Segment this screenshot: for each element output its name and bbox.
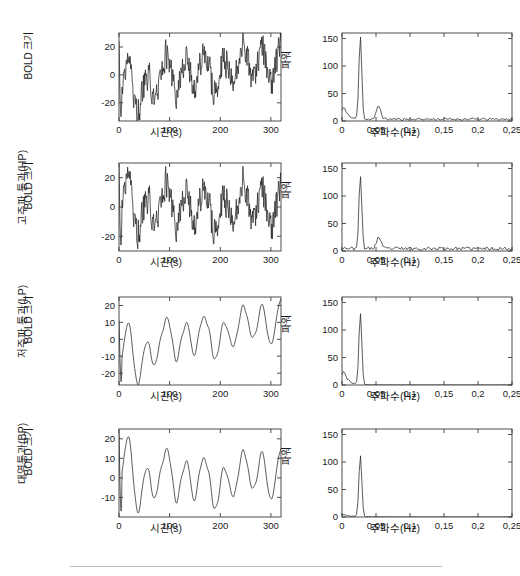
spectrum-xlabel: 주파수(Hz) bbox=[310, 124, 480, 139]
svg-text:0: 0 bbox=[110, 201, 115, 212]
timeseries-panel-lowpass: 010020030020100-10-20 bbox=[85, 294, 289, 402]
svg-text:10: 10 bbox=[104, 453, 115, 464]
svg-text:20: 20 bbox=[104, 300, 115, 311]
svg-text:50: 50 bbox=[327, 352, 338, 363]
svg-text:0,25: 0,25 bbox=[503, 254, 520, 265]
timeseries-xlabel: 시간(s) bbox=[85, 520, 247, 535]
svg-text:150: 150 bbox=[322, 297, 338, 308]
svg-text:20: 20 bbox=[104, 433, 115, 444]
svg-text:0,25: 0,25 bbox=[503, 124, 520, 135]
svg-text:300: 300 bbox=[263, 254, 279, 265]
timeseries-panel-raw: 0100200300200-20 bbox=[85, 30, 289, 138]
svg-text:0: 0 bbox=[110, 334, 115, 345]
svg-text:100: 100 bbox=[322, 60, 338, 71]
svg-text:150: 150 bbox=[322, 33, 338, 44]
svg-text:0: 0 bbox=[110, 69, 115, 80]
svg-text:300: 300 bbox=[263, 124, 279, 135]
timeseries-panel-bandpass: 010020030020100-10 bbox=[85, 426, 289, 534]
svg-text:20: 20 bbox=[104, 172, 115, 183]
timeseries-xlabel: 시간(s) bbox=[85, 388, 247, 403]
svg-text:-10: -10 bbox=[101, 351, 115, 362]
spectrum-xlabel: 주파수(Hz) bbox=[310, 254, 480, 269]
timeseries-xlabel: 시간(s) bbox=[85, 124, 247, 139]
svg-text:50: 50 bbox=[327, 218, 338, 229]
timeseries-ylabel: BOLD 크기 bbox=[20, 407, 35, 497]
svg-text:0: 0 bbox=[110, 472, 115, 483]
svg-text:0,25: 0,25 bbox=[503, 388, 520, 399]
timeseries-xlabel: 시간(s) bbox=[85, 254, 247, 269]
svg-text:-20: -20 bbox=[101, 97, 115, 108]
figure-row-raw: BOLD 크기 파워 0100200300200-20 00,050,10,15… bbox=[0, 8, 511, 142]
svg-text:300: 300 bbox=[263, 520, 279, 531]
svg-text:100: 100 bbox=[322, 324, 338, 335]
timeseries-ylabel: BOLD 크기 bbox=[20, 275, 35, 365]
svg-text:100: 100 bbox=[322, 190, 338, 201]
figure-row-highpass: 고주파 통과(HP) BOLD 크기 파워 0100200300200-20 0… bbox=[0, 138, 511, 272]
svg-text:50: 50 bbox=[327, 484, 338, 495]
svg-text:10: 10 bbox=[104, 317, 115, 328]
timeseries-panel-highpass: 0100200300200-20 bbox=[85, 160, 289, 268]
spectrum-xlabel: 주파수(Hz) bbox=[310, 520, 480, 535]
footer-rule bbox=[70, 566, 442, 567]
figure-row-bandpass: 대역통과(BP) BOLD 크기 파워 010020030020100-10 0… bbox=[0, 404, 511, 538]
svg-text:-20: -20 bbox=[101, 368, 115, 379]
spectrum-panel-bandpass: 00,050,10,150,20,25150100500 bbox=[310, 426, 520, 534]
spectrum-panel-highpass: 00,050,10,150,20,25150100500 bbox=[310, 160, 520, 268]
timeseries-ylabel: BOLD 크기 bbox=[20, 141, 35, 231]
svg-text:150: 150 bbox=[322, 163, 338, 174]
svg-text:20: 20 bbox=[104, 41, 115, 52]
spectrum-xlabel: 주파수(Hz) bbox=[310, 388, 480, 403]
svg-text:300: 300 bbox=[263, 388, 279, 399]
svg-text:100: 100 bbox=[322, 456, 338, 467]
spectrum-panel-raw: 00,050,10,150,20,25150100500 bbox=[310, 30, 520, 138]
figure-row-lowpass: 저주파 통과(LP) BOLD 크기 파워 010020030020100-10… bbox=[0, 272, 511, 406]
svg-text:50: 50 bbox=[327, 88, 338, 99]
timeseries-ylabel: BOLD 크기 bbox=[20, 11, 35, 101]
svg-text:150: 150 bbox=[322, 429, 338, 440]
svg-text:-20: -20 bbox=[101, 231, 115, 242]
svg-text:0,25: 0,25 bbox=[503, 520, 520, 531]
spectrum-panel-lowpass: 00,050,10,150,20,25150100500 bbox=[310, 294, 520, 402]
svg-text:-10: -10 bbox=[101, 492, 115, 503]
